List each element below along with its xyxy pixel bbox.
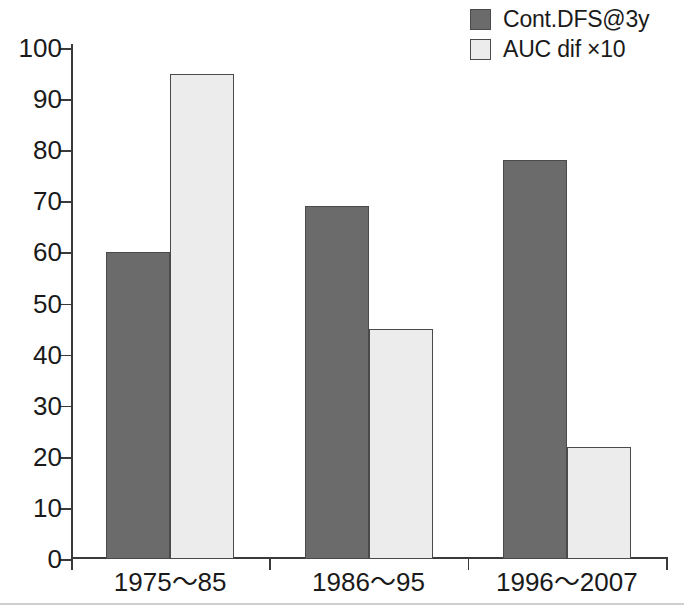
y-tick-label: 20 <box>33 444 62 470</box>
legend-item-cont-dfs-3y: Cont.DFS@3y <box>470 6 649 32</box>
x-tick-mark <box>666 559 668 570</box>
y-tick-label: 60 <box>33 239 62 265</box>
y-tick-label: 0 <box>48 546 62 572</box>
bottom-divider <box>0 603 684 605</box>
x-category-label: 1986〜95 <box>312 568 425 596</box>
y-tick-label: 40 <box>33 342 62 368</box>
y-tick-label: 30 <box>33 393 62 419</box>
y-tick-label: 90 <box>33 86 62 112</box>
bar-chart: Cont.DFS@3y AUC dif ×10 0102030405060708… <box>0 0 684 608</box>
bar <box>106 252 170 559</box>
x-tick-mark <box>71 559 73 570</box>
y-tick-label: 10 <box>33 495 62 521</box>
y-tick-label: 80 <box>33 137 62 163</box>
y-tick-label: 100 <box>19 35 62 61</box>
bar <box>305 206 369 559</box>
legend-swatch-icon <box>470 9 491 30</box>
bar <box>369 329 433 559</box>
y-tick-label: 70 <box>33 188 62 214</box>
bar <box>503 160 567 559</box>
plot-area: 0102030405060708090100 <box>71 48 666 559</box>
x-tick-mark <box>269 559 271 570</box>
x-category-label: 1975〜85 <box>114 568 227 596</box>
bar <box>170 74 234 559</box>
legend-label: Cont.DFS@3y <box>503 8 649 31</box>
x-category-label: 1996〜2007 <box>496 568 638 596</box>
y-tick-label: 50 <box>33 291 62 317</box>
x-tick-mark <box>468 559 470 570</box>
bar <box>567 447 631 559</box>
